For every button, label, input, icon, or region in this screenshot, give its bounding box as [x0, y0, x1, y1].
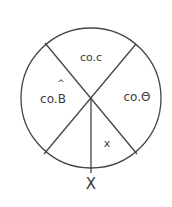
bottom-label: X [86, 175, 96, 193]
segment-label-left: co.B [40, 92, 66, 106]
segment-label-bottom-right: x [104, 137, 111, 150]
napier-circle-diagram: co.c co.Θ ^ co.B x X [0, 0, 172, 207]
segment-label-right: co.Θ [124, 90, 151, 104]
segment-label-top: co.c [80, 51, 102, 64]
hat-accent: ^ [57, 78, 65, 88]
